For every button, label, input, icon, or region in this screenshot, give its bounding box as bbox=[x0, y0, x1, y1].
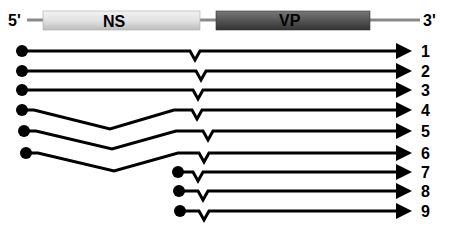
five-prime-label: 5' bbox=[8, 12, 21, 29]
transcript-line bbox=[180, 211, 396, 220]
transcript-line bbox=[22, 110, 396, 129]
transcript-number: 6 bbox=[421, 145, 430, 162]
transcript-number: 5 bbox=[421, 123, 430, 140]
transcript-number: 4 bbox=[421, 102, 430, 119]
transcript-line bbox=[178, 172, 396, 181]
cap-dot-icon bbox=[16, 104, 28, 116]
three-prime-label: 3' bbox=[423, 12, 436, 29]
arrowhead-icon bbox=[396, 183, 412, 199]
transcript-1: 1 bbox=[16, 43, 430, 60]
transcript-7: 7 bbox=[172, 164, 430, 181]
transcript-number: 1 bbox=[421, 43, 430, 60]
cap-dot-icon bbox=[16, 65, 28, 77]
transcript-list: 123456789 bbox=[16, 43, 430, 220]
transcript-number: 9 bbox=[421, 203, 430, 220]
transcript-line bbox=[24, 131, 396, 149]
transcript-number: 8 bbox=[421, 183, 430, 200]
transcript-line bbox=[22, 51, 396, 60]
transcript-map-diagram: 5' 3' NS VP 123456789 bbox=[0, 0, 451, 234]
arrowhead-icon bbox=[396, 82, 412, 98]
cap-dot-icon bbox=[18, 125, 30, 137]
transcript-8: 8 bbox=[173, 183, 430, 200]
cap-dot-icon bbox=[16, 45, 28, 57]
transcript-line bbox=[179, 191, 396, 200]
transcript-9: 9 bbox=[174, 203, 430, 220]
transcript-4: 4 bbox=[16, 102, 430, 129]
arrowhead-icon bbox=[396, 63, 412, 79]
transcript-line bbox=[22, 71, 396, 80]
cap-dot-icon bbox=[16, 84, 28, 96]
cap-dot-icon bbox=[172, 166, 184, 178]
arrowhead-icon bbox=[396, 102, 412, 118]
arrowhead-icon bbox=[396, 43, 412, 59]
cap-dot-icon bbox=[174, 205, 186, 217]
transcript-3: 3 bbox=[16, 82, 430, 99]
transcript-5: 5 bbox=[18, 123, 430, 149]
genome-map: 5' 3' NS VP bbox=[8, 11, 436, 30]
ns-label: NS bbox=[103, 13, 126, 30]
transcript-number: 7 bbox=[421, 164, 430, 181]
transcript-number: 3 bbox=[421, 82, 430, 99]
arrowhead-icon bbox=[396, 145, 412, 161]
transcript-2: 2 bbox=[16, 63, 430, 80]
transcript-number: 2 bbox=[421, 63, 430, 80]
transcript-line bbox=[26, 153, 396, 171]
arrowhead-icon bbox=[396, 203, 412, 219]
arrowhead-icon bbox=[396, 123, 412, 139]
arrowhead-icon bbox=[396, 164, 412, 180]
transcript-line bbox=[22, 90, 396, 99]
vp-label: VP bbox=[279, 12, 301, 29]
transcript-6: 6 bbox=[20, 145, 430, 171]
cap-dot-icon bbox=[20, 147, 32, 159]
cap-dot-icon bbox=[173, 185, 185, 197]
